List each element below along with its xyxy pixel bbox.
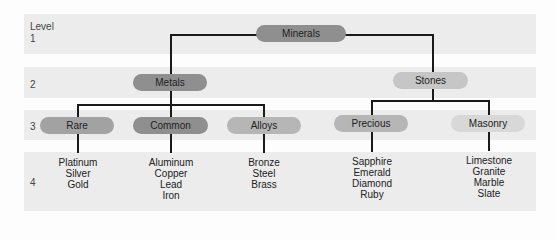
node-precious[interactable]: Precious (334, 115, 408, 132)
connector-root-left (170, 34, 257, 36)
node-masonry[interactable]: Masonry (451, 115, 525, 132)
leaf-item: Ruby (332, 189, 412, 200)
connector-rare-leaf (77, 132, 79, 153)
connector-metals-drop (170, 34, 172, 75)
node-alloys[interactable]: Alloys (227, 117, 301, 134)
leaf-item: Emerald (332, 167, 412, 178)
leaf-group-precious: Sapphire Emerald Diamond Ruby (332, 156, 412, 200)
connector-stones-bar (371, 100, 490, 102)
leaf-item: Aluminum (131, 157, 211, 168)
connector-precious-leaf (371, 130, 373, 152)
leaf-item: Platinum (38, 157, 118, 168)
level-label-4: 4 (30, 177, 36, 188)
connector-root-right (345, 34, 434, 36)
leaf-item: Brass (224, 179, 304, 190)
leaf-item: Lead (131, 179, 211, 190)
connector-metals-bar (77, 104, 265, 106)
leaf-group-common: Aluminum Copper Lead Iron (131, 157, 211, 201)
connector-rare-drop (77, 104, 79, 118)
connector-precious-drop (371, 100, 373, 116)
leaf-item: Sapphire (332, 156, 412, 167)
leaf-item: Bronze (224, 157, 304, 168)
leaf-group-masonry: Limestone Granite Marble Slate (449, 155, 529, 199)
leaf-item: Diamond (332, 178, 412, 189)
connector-masonry-drop (488, 100, 490, 116)
connector-masonry-leaf (488, 130, 490, 151)
node-stones[interactable]: Stones (393, 72, 468, 89)
node-common[interactable]: Common (133, 117, 208, 134)
node-minerals[interactable]: Minerals (256, 25, 346, 42)
leaf-item: Marble (449, 177, 529, 188)
level-label-3: 3 (30, 121, 36, 132)
node-metals[interactable]: Metals (133, 74, 207, 91)
connector-alloys-leaf (263, 132, 265, 153)
leaf-item: Slate (449, 188, 529, 199)
leaf-item: Copper (131, 168, 211, 179)
leaf-item: Steel (224, 168, 304, 179)
level-header: Level (30, 21, 54, 32)
node-rare[interactable]: Rare (40, 117, 114, 134)
leaf-group-alloys: Bronze Steel Brass (224, 157, 304, 190)
connector-stones-drop (432, 34, 434, 74)
leaf-item: Granite (449, 166, 529, 177)
connector-alloys-drop (263, 104, 265, 118)
connector-common-leaf (170, 132, 172, 153)
leaf-item: Limestone (449, 155, 529, 166)
level-label-1: 1 (30, 33, 36, 44)
leaf-group-rare: Platinum Silver Gold (38, 157, 118, 190)
leaf-item: Iron (131, 190, 211, 201)
level-label-2: 2 (30, 79, 36, 90)
leaf-item: Gold (38, 179, 118, 190)
leaf-item: Silver (38, 168, 118, 179)
